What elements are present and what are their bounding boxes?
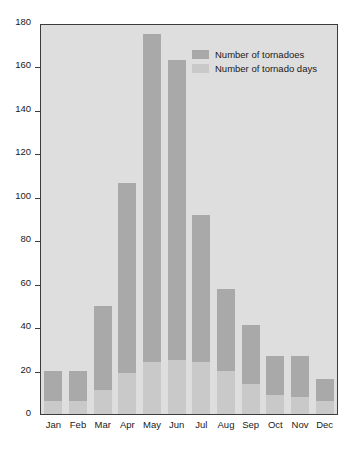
legend-label-tornado-days: Number of tornado days xyxy=(215,64,317,74)
x-axis-label-nov: Nov xyxy=(288,420,313,430)
bar-segment-tornadoes xyxy=(143,34,161,414)
x-axis-label-jan: Jan xyxy=(41,420,66,430)
bar-segment-tornado-days xyxy=(242,384,260,414)
bar-column xyxy=(238,25,263,414)
bar-segment-tornado-days xyxy=(168,360,186,414)
x-axis-label-aug: Aug xyxy=(214,420,239,430)
x-axis-label-oct: Oct xyxy=(263,420,288,430)
bar-segment-tornado-days xyxy=(69,401,87,414)
bar-segment-tornado-days xyxy=(316,401,334,414)
legend-swatch-icon-tornadoes xyxy=(192,50,209,59)
y-axis-tick-label: 160 xyxy=(15,60,31,70)
bar-segment-tornado-days xyxy=(143,362,161,414)
chart-legend: Number of tornadoes Number of tornado da… xyxy=(192,50,317,73)
bar-series-group xyxy=(41,25,337,414)
y-axis-tick-label: 120 xyxy=(15,147,31,157)
legend-item-tornado-days: Number of tornado days xyxy=(192,64,317,74)
y-axis-tick-label: 0 xyxy=(26,408,31,418)
bar-column xyxy=(189,25,214,414)
x-axis: JanFebMarAprMayJunJulAugSepOctNovDec xyxy=(41,420,337,440)
bar-column xyxy=(164,25,189,414)
legend-item-tornadoes: Number of tornadoes xyxy=(192,50,317,60)
x-axis-label-jun: Jun xyxy=(164,420,189,430)
bar-column xyxy=(140,25,165,414)
bar-segment-tornado-days xyxy=(192,362,210,414)
bar-column xyxy=(115,25,140,414)
x-axis-label-sep: Sep xyxy=(238,420,263,430)
bar-segment-tornado-days xyxy=(44,401,62,414)
bar-segment-tornado-days xyxy=(94,390,112,414)
y-axis-tick-label: 20 xyxy=(20,365,31,375)
bar-segment-tornado-days xyxy=(118,373,136,414)
bar-column xyxy=(263,25,288,414)
y-axis-tick-label: 80 xyxy=(20,234,31,244)
bar-column xyxy=(66,25,91,414)
legend-label-tornadoes: Number of tornadoes xyxy=(215,50,304,60)
tornado-bar-chart: 020406080100120140160180 JanFebMarAprMay… xyxy=(0,0,345,454)
y-axis-tick-label: 140 xyxy=(15,104,31,114)
x-axis-label-mar: Mar xyxy=(90,420,115,430)
bar-column xyxy=(288,25,313,414)
x-axis-label-apr: Apr xyxy=(115,420,140,430)
legend-swatch-icon-tornado-days xyxy=(192,64,209,73)
bar-column xyxy=(90,25,115,414)
x-axis-label-jul: Jul xyxy=(189,420,214,430)
y-axis-tick-label: 40 xyxy=(20,321,31,331)
y-axis-tick-label: 60 xyxy=(20,278,31,288)
bar-column xyxy=(312,25,337,414)
y-axis-tick-label: 100 xyxy=(15,191,31,201)
x-axis-label-may: May xyxy=(140,420,165,430)
x-axis-label-dec: Dec xyxy=(312,420,337,430)
bar-segment-tornado-days xyxy=(291,397,309,414)
bar-segment-tornado-days xyxy=(266,395,284,414)
bar-column xyxy=(41,25,66,414)
x-axis-label-feb: Feb xyxy=(66,420,91,430)
bar-segment-tornado-days xyxy=(217,371,235,414)
bar-column xyxy=(214,25,239,414)
y-axis: 020406080100120140160180 xyxy=(0,24,40,415)
y-axis-tick-label: 180 xyxy=(15,17,31,27)
